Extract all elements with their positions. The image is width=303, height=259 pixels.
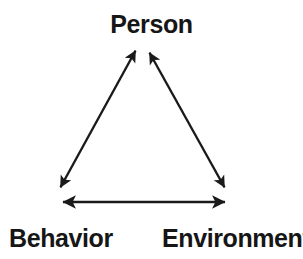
arrow-person-environment xyxy=(149,53,224,188)
arrow-behavior-person xyxy=(60,51,135,188)
node-label-person: Person xyxy=(0,12,303,37)
node-label-behavior: Behavior xyxy=(9,226,113,251)
arrow-triangle-graphic xyxy=(0,0,303,259)
node-label-environment: Environment xyxy=(162,226,303,251)
diagram-canvas: Person Behavior Environment xyxy=(0,0,303,259)
